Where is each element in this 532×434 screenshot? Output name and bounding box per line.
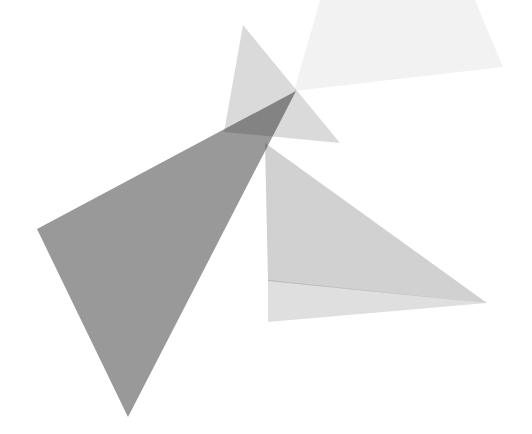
triangle-canvas xyxy=(0,0,532,434)
abstract-triangle-image xyxy=(0,0,532,434)
